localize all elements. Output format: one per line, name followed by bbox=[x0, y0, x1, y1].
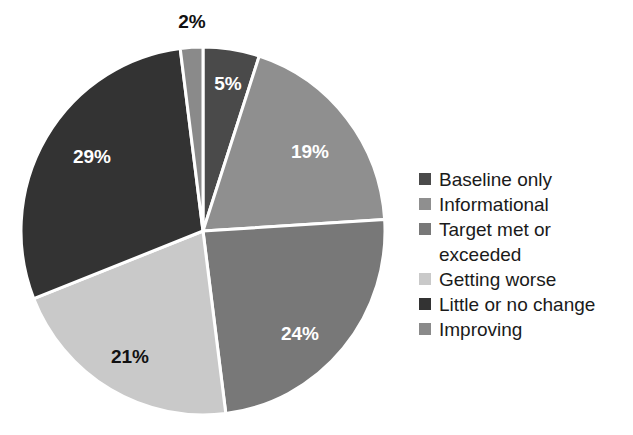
legend-item-label: Little or no change bbox=[439, 292, 595, 317]
legend-item[interactable]: Getting worse bbox=[419, 267, 624, 292]
pie-slice-label: 29% bbox=[73, 146, 111, 167]
legend-item-label: Getting worse bbox=[439, 267, 556, 292]
pie-slice-label: 21% bbox=[111, 346, 149, 367]
legend-item[interactable]: Informational bbox=[419, 192, 624, 217]
legend-item[interactable]: Improving bbox=[419, 317, 624, 342]
legend-item-label: Improving bbox=[439, 317, 522, 342]
pie-slice[interactable] bbox=[203, 219, 385, 413]
legend-swatch-icon bbox=[419, 198, 431, 210]
legend-swatch-icon bbox=[419, 173, 431, 185]
legend-item-label: Baseline only bbox=[439, 167, 552, 192]
legend-item-label: Informational bbox=[439, 192, 549, 217]
legend-item[interactable]: Little or no change bbox=[419, 292, 624, 317]
legend-item-label: Target met orexceeded bbox=[439, 217, 551, 267]
pie-slice-label: 5% bbox=[214, 73, 242, 94]
legend-swatch-icon bbox=[419, 323, 431, 335]
pie-slice-label: 2% bbox=[178, 11, 206, 32]
pie-slice-label: 24% bbox=[281, 323, 319, 344]
legend-swatch-icon bbox=[419, 223, 431, 235]
legend-swatch-icon bbox=[419, 273, 431, 285]
pie-slice-label: 19% bbox=[291, 141, 329, 162]
legend-swatch-icon bbox=[419, 298, 431, 310]
chart-legend: Baseline onlyInformationalTarget met ore… bbox=[419, 167, 624, 342]
legend-item[interactable]: Target met orexceeded bbox=[419, 217, 624, 267]
legend-item[interactable]: Baseline only bbox=[419, 167, 624, 192]
pie-chart: 5%19%24%21%29%2% Baseline onlyInformatio… bbox=[0, 0, 633, 435]
pie-slice-group bbox=[21, 47, 385, 415]
